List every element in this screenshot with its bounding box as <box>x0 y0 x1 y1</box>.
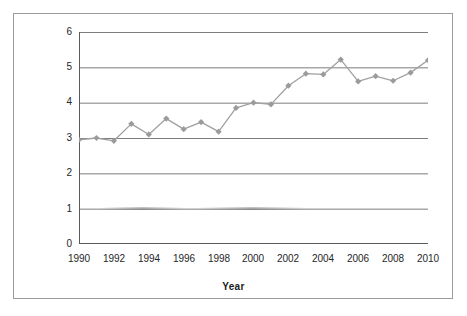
data-point-2007 <box>373 73 379 79</box>
x-tick-label-1990: 1990 <box>59 253 99 264</box>
x-tick-label-2004: 2004 <box>303 253 343 264</box>
x-tick-label-1994: 1994 <box>129 253 169 264</box>
x-tick-label-2000: 2000 <box>233 253 273 264</box>
data-point-1996 <box>181 126 187 132</box>
x-tick-label-2002: 2002 <box>268 253 308 264</box>
y-tick-label-4: 4 <box>50 96 72 107</box>
x-axis-title: Year <box>0 281 467 292</box>
chart-figure: Percentage of articles 6 5 4 3 2 1 0 199… <box>0 0 467 316</box>
y-tick-label-3: 3 <box>50 132 72 143</box>
scan-artifact-left <box>100 207 185 210</box>
plot-area <box>79 32 428 244</box>
x-tick-label-1996: 1996 <box>164 253 204 264</box>
y-tick-label-6: 6 <box>50 26 72 37</box>
y-tick-label-2: 2 <box>50 167 72 178</box>
x-tick-label-2006: 2006 <box>338 253 378 264</box>
data-point-2008 <box>390 78 396 84</box>
scan-artifact-right <box>197 207 307 210</box>
y-tick-label-1: 1 <box>50 203 72 214</box>
plot-svg <box>79 32 428 244</box>
data-point-1990 <box>79 137 82 143</box>
y-tick-label-0: 0 <box>50 238 72 249</box>
data-point-2000 <box>250 100 256 106</box>
x-tick-label-2008: 2008 <box>373 253 413 264</box>
x-tick-label-1992: 1992 <box>94 253 134 264</box>
y-tick-label-5: 5 <box>50 61 72 72</box>
data-point-1997 <box>198 119 204 125</box>
series-markers <box>79 56 428 143</box>
data-point-1991 <box>93 135 99 141</box>
x-tick-label-2010: 2010 <box>408 253 448 264</box>
